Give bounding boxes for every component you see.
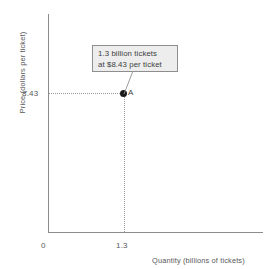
x-axis-tick-label-origin: 0: [41, 241, 46, 250]
callout-line-1: 1.3 billion tickets: [98, 48, 157, 59]
price-quantity-chart: Price (dollars per ticket) Quantity (bil…: [0, 0, 275, 269]
data-point-a-marker: [120, 90, 127, 97]
callout-line-2: at $8.43 per ticket: [98, 59, 162, 70]
x-axis-line: [48, 232, 263, 233]
y-axis-tick-label-843: 8.43: [22, 89, 38, 98]
callout-annotation-box: 1.3 billion tickets at $8.43 per ticket: [92, 45, 178, 72]
horizontal-guide-line: [49, 93, 124, 94]
y-axis-line: [48, 14, 49, 233]
x-axis-tick-label-13: 1.3: [116, 241, 128, 250]
x-axis-title: Quantity (billions of tickets): [152, 256, 245, 265]
data-point-a-label: A: [128, 88, 133, 97]
y-axis-title: Price (dollars per ticket): [18, 15, 27, 131]
vertical-guide-line: [124, 95, 125, 232]
